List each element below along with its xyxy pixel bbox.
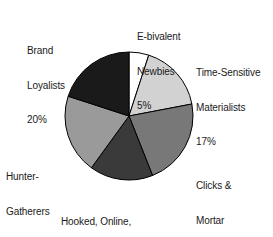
pie-label-hooked-online-and-single: Hooked, Online, & Single 16%	[61, 193, 131, 237]
pie-label-line-1: Brand	[27, 45, 65, 57]
pie-label-line-2: Materialists	[196, 102, 260, 114]
pie-label-line-2: Mortar	[196, 215, 231, 227]
pie-label-line-2: Gatherers	[6, 206, 50, 218]
pie-label-line-1: Time-Sensitive	[196, 67, 260, 79]
pie-label-line-1: Hunter-	[6, 171, 50, 183]
pie-label-line-1: Hooked, Online,	[61, 216, 131, 228]
pie-label-hunter-gatherers: Hunter- Gatherers 20%	[6, 148, 50, 237]
pie-label-line-1: Clicks &	[196, 180, 231, 192]
pie-label-value: 17%	[196, 136, 260, 148]
pie-label-time-sensitive-materialists: Time-Sensitive Materialists 17%	[196, 44, 260, 171]
pie-label-clicks-and-mortar: Clicks & Mortar 22%	[196, 157, 231, 237]
pie-label-value: 20%	[27, 114, 65, 126]
pie-chart-figure: E-bivalent Newbies 5% Time-Sensitive Mat…	[0, 0, 273, 237]
pie-label-brand-loyalists: Brand Loyalists 20%	[27, 22, 65, 149]
pie-label-line-2: Loyalists	[27, 80, 65, 92]
pie-label-line-2: Newbies	[137, 66, 180, 78]
pie-label-line-1: E-bivalent	[137, 31, 180, 43]
pie-label-e-bivalent-newbies: E-bivalent Newbies 5%	[137, 8, 180, 135]
pie-label-value: 5%	[137, 100, 180, 112]
